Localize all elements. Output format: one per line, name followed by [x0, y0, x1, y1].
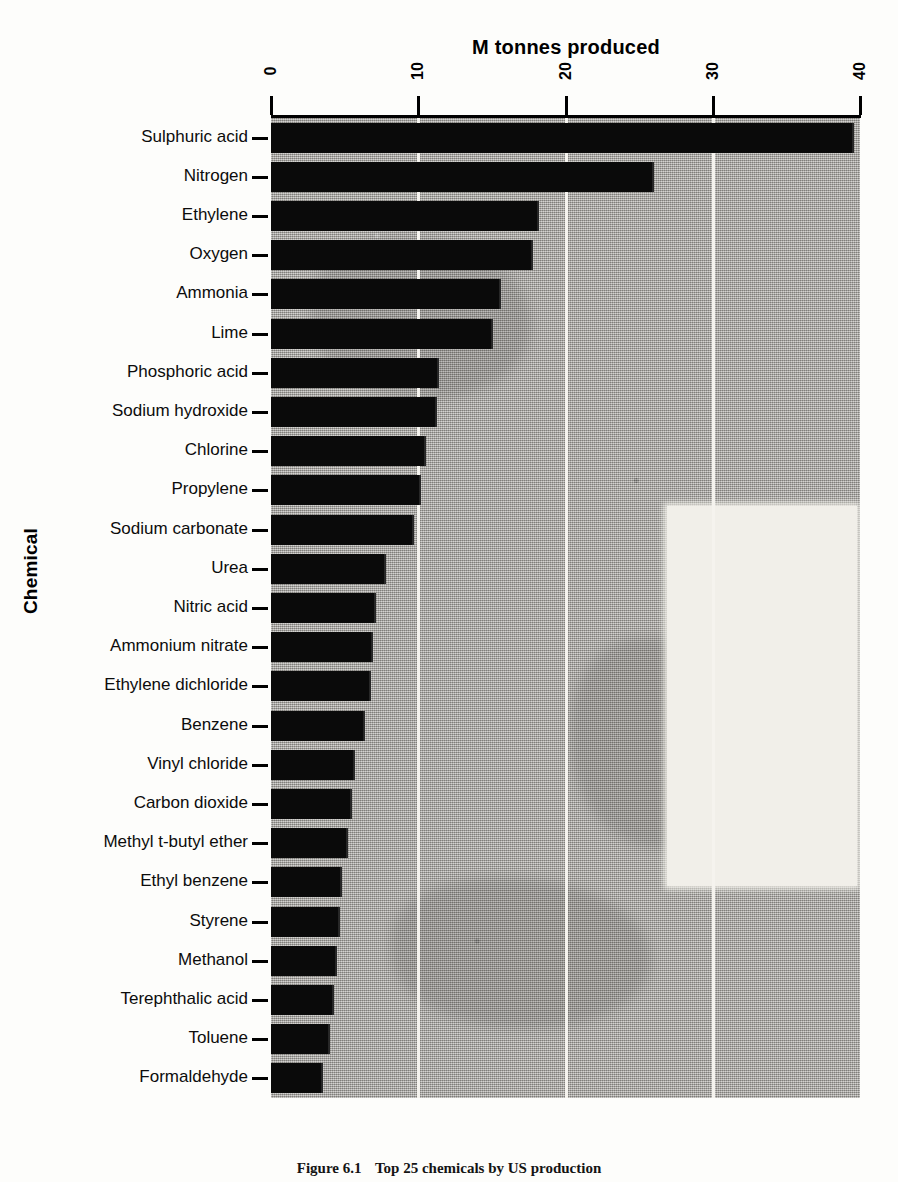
bar [271, 711, 365, 741]
bar [271, 593, 376, 623]
bar [271, 279, 501, 309]
category-label: Urea [0, 558, 248, 578]
figure-caption-number: Figure 6.1 [297, 1160, 362, 1176]
category-tick [252, 293, 268, 296]
bar-row [271, 123, 860, 153]
bar-row [271, 1063, 860, 1093]
category-label: Carbon dioxide [0, 793, 248, 813]
x-axis-tick-label: 40 [851, 56, 869, 86]
category-label: Formaldehyde [0, 1067, 248, 1087]
bar-row [271, 358, 860, 388]
category-tick [252, 215, 268, 218]
category-label: Ethylene dichloride [0, 675, 248, 695]
bar-row [271, 907, 860, 937]
bar [271, 671, 371, 701]
category-tick [252, 999, 268, 1002]
bar [271, 907, 340, 937]
category-label: Sulphuric acid [0, 127, 248, 147]
bar [271, 867, 342, 897]
x-axis-tick [712, 96, 715, 115]
category-tick [252, 372, 268, 375]
category-tick [252, 137, 268, 140]
category-tick [252, 960, 268, 963]
category-label: Nitrogen [0, 166, 248, 186]
category-tick [252, 803, 268, 806]
bar [271, 436, 426, 466]
bar-row [271, 201, 860, 231]
bar [271, 1024, 330, 1054]
category-label: Phosphoric acid [0, 362, 248, 382]
bar [271, 358, 439, 388]
bar-row [271, 593, 860, 623]
category-label: Nitric acid [0, 597, 248, 617]
category-label: Ammonium nitrate [0, 636, 248, 656]
category-tick [252, 685, 268, 688]
bar [271, 319, 493, 349]
bar-row [271, 985, 860, 1015]
bar-row [271, 671, 860, 701]
category-label: Benzene [0, 715, 248, 735]
bar-row [271, 162, 860, 192]
category-label: Lime [0, 323, 248, 343]
category-label: Styrene [0, 911, 248, 931]
category-label: Propylene [0, 479, 248, 499]
bar [271, 750, 355, 780]
bar-row [271, 711, 860, 741]
x-axis-tick-label: 10 [409, 56, 427, 86]
x-axis-tick-label: 30 [704, 56, 722, 86]
category-tick [252, 333, 268, 336]
category-tick [252, 725, 268, 728]
x-axis-tick-label: 20 [557, 56, 575, 86]
category-label: Methanol [0, 950, 248, 970]
category-tick [252, 254, 268, 257]
bar-row [271, 397, 860, 427]
bar [271, 123, 854, 153]
category-tick [252, 842, 268, 845]
bar [271, 397, 437, 427]
category-label: Oxygen [0, 244, 248, 264]
bar-row [271, 279, 860, 309]
x-axis-tick [417, 96, 420, 115]
category-label: Terephthalic acid [0, 989, 248, 1009]
bar-row [271, 1024, 860, 1054]
category-label: Chlorine [0, 440, 248, 460]
bar [271, 201, 539, 231]
bar [271, 475, 421, 505]
bar [271, 554, 386, 584]
bar-row [271, 789, 860, 819]
bar [271, 162, 654, 192]
category-tick [252, 1077, 268, 1080]
bar [271, 632, 373, 662]
bar-row [271, 475, 860, 505]
bar [271, 789, 352, 819]
category-label: Ammonia [0, 283, 248, 303]
category-label: Sodium hydroxide [0, 401, 248, 421]
figure-caption-text: Top 25 chemicals by US production [375, 1160, 601, 1176]
category-tick [252, 176, 268, 179]
category-tick [252, 489, 268, 492]
category-label: Toluene [0, 1028, 248, 1048]
category-tick [252, 646, 268, 649]
bar-row [271, 632, 860, 662]
category-tick [252, 921, 268, 924]
category-tick [252, 607, 268, 610]
category-tick [252, 411, 268, 414]
bar-row [271, 515, 860, 545]
plot-area [271, 118, 860, 1098]
bar [271, 985, 334, 1015]
bar [271, 1063, 323, 1093]
category-label: Vinyl chloride [0, 754, 248, 774]
bar-row [271, 554, 860, 584]
category-tick [252, 529, 268, 532]
category-label: Methyl t-butyl ether [0, 832, 248, 852]
bar-row [271, 240, 860, 270]
figure-page: M tonnes produced Chemical 010203040 Sul… [0, 0, 898, 1182]
category-tick [252, 1038, 268, 1041]
bar [271, 240, 533, 270]
bar-row [271, 828, 860, 858]
bar [271, 515, 414, 545]
bar [271, 946, 337, 976]
bar-row [271, 436, 860, 466]
category-tick [252, 881, 268, 884]
bar-row [271, 867, 860, 897]
